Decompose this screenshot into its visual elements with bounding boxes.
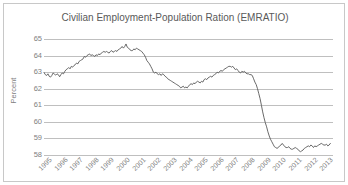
y-axis-tick-label: 61: [24, 101, 42, 109]
y-axis-tick-label: 58: [24, 151, 42, 159]
data-line-chart: [44, 39, 333, 155]
y-axis-tick-label: 62: [24, 85, 42, 93]
chart-screenshot: Civilian Employment-Population Ration (E…: [0, 0, 348, 185]
series-emratio-line: [44, 44, 330, 152]
chart-title: Civilian Employment-Population Ration (E…: [4, 12, 346, 23]
y-axis-tick-label: 65: [24, 35, 42, 43]
y-axis-title: Percent: [9, 69, 18, 113]
y-axis-tick-labels: 6564636261605958: [20, 0, 42, 185]
y-axis-tick-label: 59: [24, 134, 42, 142]
y-axis-tick-label: 63: [24, 68, 42, 76]
plot-area: [44, 39, 333, 155]
y-axis-tick-label: 60: [24, 118, 42, 126]
y-axis-tick-label: 64: [24, 52, 42, 60]
x-axis-tick-labels: 1995199619971998199920002001200220032004…: [44, 156, 333, 184]
